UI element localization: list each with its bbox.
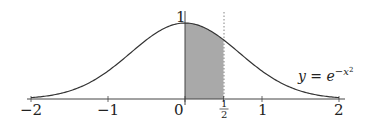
gaussian-plot: −2 −1 0 1 2 1 2 1 y = e−x2 <box>0 0 366 124</box>
tick-label-1: 1 <box>258 101 268 119</box>
svg-text:1: 1 <box>221 98 227 109</box>
svg-text:y = e−x2: y = e−x2 <box>297 66 353 84</box>
svg-text:2: 2 <box>221 109 227 120</box>
tick-label-neg2: −2 <box>20 101 42 119</box>
tick-label-0: 0 <box>174 101 184 119</box>
function-label: y = e−x2 <box>297 66 353 84</box>
y-tick-label-1: 1 <box>176 8 186 26</box>
tick-label-half: 1 2 <box>220 98 229 120</box>
tick-label-2: 2 <box>334 101 344 119</box>
shaded-area <box>185 23 224 99</box>
tick-label-neg1: −1 <box>97 101 119 119</box>
